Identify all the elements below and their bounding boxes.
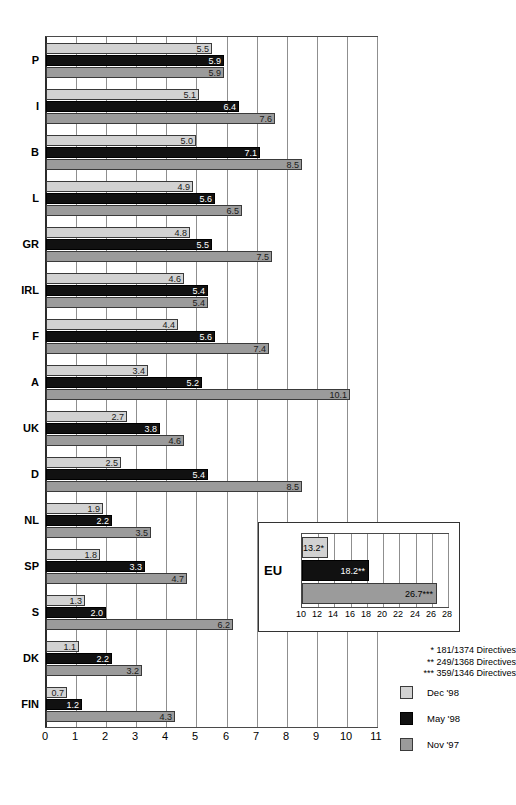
- inset-bar-series-0: 13.2*: [302, 537, 328, 558]
- x-tick-11: 11: [370, 730, 381, 742]
- legend-label-nov-97: Nov '97: [427, 739, 459, 750]
- bar-uk-series-2: 4.6: [46, 435, 184, 446]
- bar-value-label: 3.8: [140, 423, 160, 434]
- bar-nl-series-2: 3.5: [46, 527, 151, 538]
- bar-value-label: 5.6: [195, 193, 215, 204]
- bar-dk-series-2: 3.2: [46, 665, 142, 676]
- bar-i-series-1: 6.4: [46, 101, 239, 112]
- bar-group-uk: UK2.73.84.6: [46, 405, 377, 451]
- category-label-uk: UK: [23, 422, 39, 434]
- bar-a-series-0: 3.4: [46, 365, 148, 376]
- inset-x-tick-22: 22: [393, 609, 403, 619]
- bar-value-label: 2.0: [86, 607, 106, 618]
- bar-value-label: 6.5: [222, 205, 242, 216]
- x-tick-7: 7: [253, 730, 259, 742]
- bar-group-fin: FIN0.71.24.3: [46, 681, 377, 727]
- bar-dk-series-1: 2.2: [46, 653, 112, 664]
- category-label-i: I: [36, 100, 39, 112]
- bar-value-label: 6.2: [213, 619, 233, 630]
- bar-irl-series-1: 5.4: [46, 285, 208, 296]
- bar-group-l: L4.95.66.5: [46, 175, 377, 221]
- bar-value-label: 2.5: [101, 457, 121, 468]
- bar-value-label: 5.5: [192, 43, 212, 54]
- bar-value-label: 2.2: [92, 653, 112, 664]
- bar-group-f: F4.45.67.4: [46, 313, 377, 359]
- bar-value-label: 6.4: [219, 101, 239, 112]
- bar-group-b: B5.07.18.5: [46, 129, 377, 175]
- bar-b-series-1: 7.1: [46, 147, 260, 158]
- eu-inset-panel: EU 13.2*18.2**26.7*** 101214161820222426…: [258, 522, 460, 632]
- category-label-f: F: [32, 330, 39, 342]
- bar-value-label: 4.6: [164, 435, 184, 446]
- footnote-2: ** 249/1368 Directives: [378, 657, 516, 669]
- x-tick-3: 3: [132, 730, 138, 742]
- bar-s-series-0: 1.3: [46, 595, 85, 606]
- bar-f-series-2: 7.4: [46, 343, 269, 354]
- bar-sp-series-2: 4.7: [46, 573, 187, 584]
- bar-nl-series-1: 2.2: [46, 515, 112, 526]
- footnote-1: * 181/1374 Directives: [378, 645, 516, 657]
- bar-value-label: 5.4: [188, 297, 208, 308]
- inset-x-tick-20: 20: [377, 609, 387, 619]
- bar-value-label: 2.7: [107, 411, 127, 422]
- bar-p-series-1: 5.9: [46, 55, 224, 66]
- bar-i-series-0: 5.1: [46, 89, 199, 100]
- bar-value-label: 4.7: [167, 573, 187, 584]
- bar-group-irl: IRL4.65.45.4: [46, 267, 377, 313]
- bar-value-label: 4.6: [164, 273, 184, 284]
- inset-x-tick-24: 24: [410, 609, 420, 619]
- legend-swatch-dec-98: [400, 686, 413, 699]
- bar-irl-series-0: 4.6: [46, 273, 184, 284]
- category-label-sp: SP: [24, 560, 39, 572]
- legend-item-dec-98: Dec '98: [400, 682, 460, 703]
- bar-fin-series-1: 1.2: [46, 699, 82, 710]
- x-tick-2: 2: [102, 730, 108, 742]
- bar-sp-series-1: 3.3: [46, 561, 145, 572]
- x-tick-1: 1: [72, 730, 78, 742]
- legend-item-may-98: May '98: [400, 708, 460, 729]
- bar-p-series-0: 5.5: [46, 43, 212, 54]
- bar-value-label: 5.0: [176, 135, 196, 146]
- category-label-irl: IRL: [21, 284, 39, 296]
- bar-value-label: 5.2: [182, 377, 202, 388]
- inset-bar-series-2: 26.7***: [302, 583, 437, 604]
- bar-uk-series-0: 2.7: [46, 411, 127, 422]
- inset-category-label: EU: [264, 563, 282, 578]
- bar-f-series-1: 5.6: [46, 331, 215, 342]
- bar-d-series-2: 8.5: [46, 481, 302, 492]
- inset-x-axis-tick-labels: 10121416182022242628: [301, 609, 449, 623]
- bar-value-label: 5.6: [195, 331, 215, 342]
- bar-sp-series-0: 1.8: [46, 549, 100, 560]
- bar-group-gr: GR4.85.57.5: [46, 221, 377, 267]
- bar-b-series-2: 8.5: [46, 159, 302, 170]
- bar-value-label: 4.8: [170, 227, 190, 238]
- bar-value-label: 1.3: [65, 595, 85, 606]
- x-tick-5: 5: [192, 730, 198, 742]
- bar-value-label: 4.4: [158, 319, 178, 330]
- inset-bar-value-label: 26.7***: [405, 589, 433, 598]
- bar-l-series-2: 6.5: [46, 205, 242, 216]
- category-label-a: A: [31, 376, 39, 388]
- bar-value-label: 1.8: [80, 549, 100, 560]
- bar-gr-series-2: 7.5: [46, 251, 272, 262]
- x-tick-8: 8: [283, 730, 289, 742]
- legend-swatch-may-98: [400, 712, 413, 725]
- bar-value-label: 5.5: [192, 239, 212, 250]
- bar-s-series-2: 6.2: [46, 619, 233, 630]
- bar-value-label: 3.3: [125, 561, 145, 572]
- bar-value-label: 1.1: [59, 641, 79, 652]
- x-tick-4: 4: [162, 730, 168, 742]
- bar-value-label: 5.9: [204, 67, 224, 78]
- bar-d-series-1: 5.4: [46, 469, 208, 480]
- bar-l-series-0: 4.9: [46, 181, 193, 192]
- bar-nl-series-0: 1.9: [46, 503, 103, 514]
- inset-x-tick-28: 28: [442, 609, 452, 619]
- bar-value-label: 1.2: [62, 699, 82, 710]
- footnotes: * 181/1374 Directives ** 249/1368 Direct…: [378, 645, 516, 680]
- bar-value-label: 5.9: [204, 55, 224, 66]
- legend: Dec '98 May '98 Nov '97: [400, 682, 460, 760]
- inset-x-tick-18: 18: [361, 609, 371, 619]
- bar-group-p: P5.55.95.9: [46, 37, 377, 83]
- chart-figure: P5.55.95.9I5.16.47.6B5.07.18.5L4.95.66.5…: [0, 0, 516, 805]
- category-label-l: L: [32, 192, 39, 204]
